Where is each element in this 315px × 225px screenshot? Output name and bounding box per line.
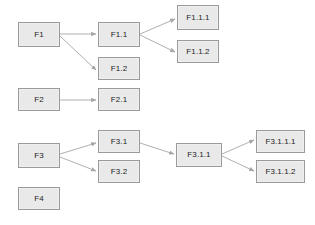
node-label: F4 bbox=[34, 194, 44, 202]
diagram-canvas: F1F1.1F1.2F1.1.1F1.1.2F2F2.1F3F3.1F3.2F3… bbox=[0, 0, 315, 225]
node-F1.1[interactable]: F1.1 bbox=[98, 22, 140, 47]
edge-F1.1-to-F1.1.1 bbox=[140, 19, 175, 34]
node-label: F1.2 bbox=[111, 64, 127, 72]
node-label: F1.1.1 bbox=[186, 13, 209, 21]
node-F3.2[interactable]: F3.2 bbox=[98, 160, 140, 183]
node-label: F3.1.1.1 bbox=[265, 137, 295, 145]
edge-F3-to-F3.1 bbox=[60, 143, 96, 154]
node-label: F3.1 bbox=[111, 137, 127, 145]
node-label: F1 bbox=[34, 30, 44, 38]
node-F3.1[interactable]: F3.1 bbox=[98, 130, 140, 153]
node-F3.1.1.2[interactable]: F3.1.1.2 bbox=[256, 160, 305, 183]
edge-F1.1-to-F1.1.2 bbox=[140, 35, 175, 52]
node-F1.1.2[interactable]: F1.1.2 bbox=[177, 40, 219, 63]
edge-F3.1.1-to-F3.1.1.1 bbox=[222, 140, 254, 154]
node-label: F1.1.2 bbox=[186, 47, 209, 55]
node-F1.1.1[interactable]: F1.1.1 bbox=[177, 5, 219, 30]
edge-F3.1.1-to-F3.1.1.2 bbox=[222, 156, 254, 171]
node-F3.1.1.1[interactable]: F3.1.1.1 bbox=[256, 130, 305, 153]
node-label: F3.2 bbox=[111, 167, 127, 175]
edge-F3-to-F3.2 bbox=[60, 157, 96, 171]
node-label: F3.1.1.2 bbox=[265, 167, 295, 175]
edge-F3.1-to-F3.1.1 bbox=[140, 143, 174, 154]
node-F3[interactable]: F3 bbox=[18, 143, 60, 168]
node-label: F1.1 bbox=[111, 30, 127, 38]
node-F2.1[interactable]: F2.1 bbox=[98, 88, 140, 111]
node-F1.2[interactable]: F1.2 bbox=[98, 57, 140, 80]
node-label: F3 bbox=[34, 151, 44, 159]
node-F1[interactable]: F1 bbox=[18, 22, 60, 47]
node-F4[interactable]: F4 bbox=[18, 187, 60, 210]
node-F2[interactable]: F2 bbox=[18, 88, 60, 111]
node-label: F3.1.1 bbox=[187, 151, 210, 159]
node-label: F2 bbox=[34, 95, 44, 103]
edge-F1-to-F1.2 bbox=[60, 36, 96, 70]
node-F3.1.1[interactable]: F3.1.1 bbox=[176, 143, 222, 167]
edge-group bbox=[60, 19, 254, 171]
node-label: F2.1 bbox=[111, 95, 127, 103]
